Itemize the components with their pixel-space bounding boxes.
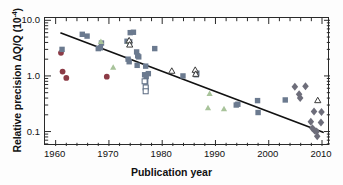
data-point-diamond [302,82,309,90]
y-axis-title-paren: ) [11,8,23,11]
data-point-triangle [110,64,116,69]
y-axis-title-exponent: -4 [11,11,18,17]
data-point-square [80,32,85,37]
x-tick-label: 2010 [310,148,331,159]
x-axis-title: Publication year [0,166,343,178]
data-point-square [84,33,89,38]
y-axis-title-text: Relative precision ΔQ/Q (10 [11,17,23,152]
x-tick-label: 1990 [204,148,225,159]
data-point-square [235,102,240,107]
x-tick-label: 2000 [257,148,278,159]
data-point-diamond [292,83,299,91]
data-point-square-open [143,89,148,94]
y-tick-label: 0.1 [27,125,40,136]
data-point-square-open [142,79,147,84]
x-tick-label: 1980 [151,148,172,159]
data-point-square [283,97,288,102]
data-point-triangle-open [169,68,175,73]
y-tick-label: 1.0 [27,69,40,80]
figure-container: Relative precision ΔQ/Q (10-4) Publicati… [0,0,343,185]
data-point-triangle [205,105,211,110]
data-point-diamond [318,119,325,127]
data-point-square [255,98,260,103]
data-point-diamond [318,108,325,116]
y-tick-label: 10.0 [22,14,41,25]
x-tick-label: 1970 [97,148,118,159]
data-point-triangle [221,106,227,111]
x-tick-label: 1960 [44,148,65,159]
data-point-square [136,54,141,59]
data-point-circle [63,75,69,81]
data-point-diamond [308,118,315,126]
data-point-triangle-open [315,97,321,102]
series-triangles-filled [98,38,227,111]
data-point-square [255,110,260,115]
series-diamonds [292,82,325,140]
data-point-triangle [207,90,213,95]
data-point-square [143,63,148,68]
data-point-square [59,47,64,52]
series-squares-open [142,79,148,94]
data-point-square [134,63,139,68]
data-point-circle [60,69,66,75]
data-point-circle [104,74,110,80]
data-point-square [126,59,131,64]
data-point-square [152,46,157,51]
series-circles [58,50,110,81]
data-point-square [180,73,185,78]
y-axis-title: Relative precision ΔQ/Q (10-4) [11,5,24,155]
data-point-diamond [311,107,318,115]
scatter-plot-svg [45,18,330,146]
data-point-square [98,45,103,50]
plot-canvas [45,18,328,144]
plot-area [44,17,329,145]
data-point-square [144,74,149,79]
data-point-square [131,30,136,35]
